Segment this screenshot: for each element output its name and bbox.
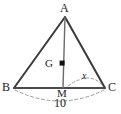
vertex-label-b: B (2, 81, 10, 93)
centroid-point-marker (60, 61, 65, 66)
median-AM-line (63, 17, 65, 88)
angle-label-x: x (82, 71, 86, 81)
geometry-figure: A B C G M 10 x (0, 0, 121, 114)
vertex-label-a: A (60, 2, 69, 14)
centroid-label-g: G (45, 58, 53, 69)
side-AB-line (14, 17, 65, 88)
base-length-label: 10 (54, 97, 66, 109)
vertex-label-c: C (108, 81, 116, 93)
